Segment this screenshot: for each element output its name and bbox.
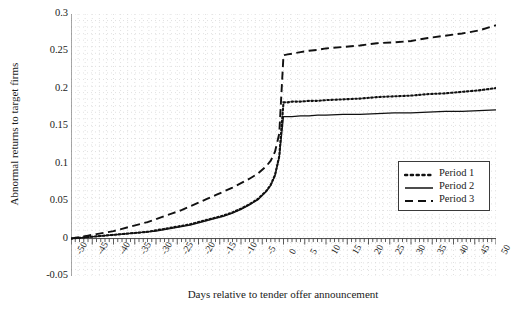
legend-label: Period 2	[439, 180, 474, 191]
x-tick-label: 10	[329, 243, 342, 256]
y-tick-label: 0.3	[28, 8, 68, 19]
legend: Period 1Period 2Period 3	[398, 161, 490, 211]
x-tick-label: -5	[265, 244, 278, 256]
legend-swatch-dotted-icon	[404, 167, 434, 179]
x-tick-label: 30	[414, 243, 427, 256]
x-axis-title: Days relative to tender offer announceme…	[70, 288, 496, 300]
y-tick-label: 0.25	[28, 45, 68, 56]
grid-lines	[71, 14, 496, 276]
y-tick-label: 0.15	[28, 120, 68, 131]
x-tick-label: 25	[393, 243, 406, 256]
y-axis-tick-labels: -0.0500.050.10.150.20.250.3	[22, 14, 68, 276]
x-tick-label: 15	[350, 243, 363, 256]
x-tick-label: 20	[372, 243, 385, 256]
legend-item[interactable]: Period 1	[404, 166, 484, 179]
x-tick-label: 5	[308, 247, 319, 256]
x-tick-label: 50	[499, 243, 512, 256]
y-tick-label: 0.05	[28, 195, 68, 206]
plot-canvas	[71, 14, 496, 276]
y-axis-title: Abnormal returns to target firms	[8, 34, 20, 234]
legend-label: Period 3	[439, 193, 474, 204]
y-tick-label: 0.2	[28, 83, 68, 94]
x-axis-tick-labels: -50-45-40-35-30-25-20-15-10-505101520253…	[71, 245, 496, 285]
legend-item[interactable]: Period 3	[404, 192, 484, 205]
x-tick-label: 0	[287, 247, 298, 256]
legend-item[interactable]: Period 2	[404, 179, 484, 192]
legend-swatch-solid-icon	[404, 180, 434, 192]
legend-swatch-dashed-icon	[404, 193, 434, 205]
x-tick-label: 35	[435, 243, 448, 256]
y-tick-label: -0.05	[28, 270, 68, 281]
y-tick-label: 0	[28, 233, 68, 244]
plot-area	[71, 14, 496, 276]
x-tick-label: 40	[457, 243, 470, 256]
x-tick-label: 45	[478, 243, 491, 256]
legend-label: Period 1	[439, 167, 474, 178]
y-tick-label: 0.1	[28, 158, 68, 169]
